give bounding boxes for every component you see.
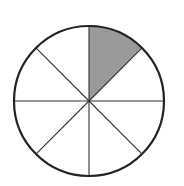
fraction-circle-diagram — [0, 0, 184, 186]
